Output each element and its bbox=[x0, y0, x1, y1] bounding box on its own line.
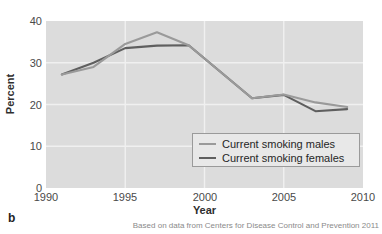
x-tick-2000: 2000 bbox=[182, 191, 228, 203]
x-tick-1995: 1995 bbox=[102, 191, 148, 203]
y-axis-title: Percent bbox=[4, 64, 16, 124]
x-axis-title: Year bbox=[46, 204, 363, 216]
legend-swatch-males-icon bbox=[199, 143, 216, 145]
legend-item-females: Current smoking females bbox=[199, 151, 359, 165]
y-tick-40: 40 bbox=[2, 16, 42, 27]
legend-label-females: Current smoking females bbox=[222, 153, 344, 164]
legend-label-males: Current smoking males bbox=[222, 139, 335, 150]
chart-legend: Current smoking males Current smoking fe… bbox=[192, 133, 360, 167]
legend-swatch-females-icon bbox=[199, 157, 216, 159]
source-note: Based on data from Centers for Disease C… bbox=[0, 221, 379, 230]
x-tick-2010: 2010 bbox=[340, 191, 382, 203]
y-tick-10: 10 bbox=[2, 141, 42, 152]
figure-panel-b: 0 10 20 30 40 Percent 1990 1995 2000 200… bbox=[0, 0, 382, 234]
x-tick-1990: 1990 bbox=[23, 191, 69, 203]
legend-item-males: Current smoking males bbox=[199, 137, 359, 151]
x-tick-2005: 2005 bbox=[261, 191, 307, 203]
